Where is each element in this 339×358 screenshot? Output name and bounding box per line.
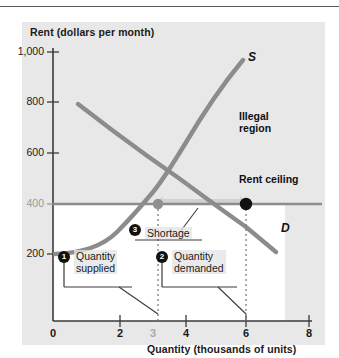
callout-1-line1: Quantity [76, 250, 115, 262]
y-tick-label-1000: 1,000 [4, 46, 44, 57]
callout-2-line2: demanded [174, 262, 224, 274]
x-axis-title: Quantity (thousands of units) [147, 344, 296, 355]
y-tick-label-600: 600 [4, 147, 44, 158]
quantity-demanded-point [240, 198, 252, 210]
illegal-region-label: Illegal region [239, 110, 299, 135]
callout-3-label: Shortage [145, 227, 192, 239]
y-axis-title: Rent (dollars per month) [30, 27, 154, 38]
callout-1-badge: 1 [58, 251, 70, 263]
callout-3-badge: 3 [129, 224, 141, 236]
y-tick-label-800: 800 [4, 96, 44, 107]
rent-ceiling-label: Rent ceiling [239, 173, 299, 185]
callout-2-label: Quantity demanded [172, 250, 226, 274]
quantity-supplied-point [153, 199, 163, 209]
x-tick-label-4: 4 [171, 328, 201, 340]
callout-1-line2: supplied [76, 262, 115, 274]
supply-curve-label: S [248, 51, 256, 64]
x-tick-label-2: 2 [105, 328, 135, 340]
callout-2-badge: 2 [156, 251, 168, 263]
y-tick-label-400: 400 [4, 198, 44, 209]
page-top-rule [0, 6, 339, 7]
demand-curve-label: D [281, 222, 290, 235]
x-tick-label-0: 0 [38, 328, 68, 340]
figure-panel: Rent (dollars per month) 1,000 800 600 4… [22, 22, 325, 345]
callout-2-line1: Quantity [174, 250, 213, 262]
callout-1-label: Quantity supplied [74, 250, 117, 274]
x-tick-label-6: 6 [231, 328, 261, 340]
x-tick-label-8: 8 [294, 328, 324, 340]
x-tick-label-3: 3 [138, 328, 168, 340]
y-tick-label-200: 200 [4, 248, 44, 259]
